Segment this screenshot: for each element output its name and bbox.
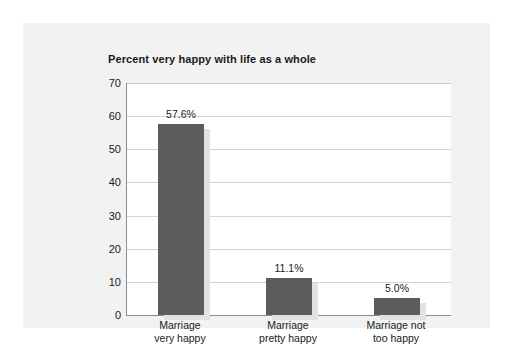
chart-title: Percent very happy with life as a whole <box>108 53 316 65</box>
y-axis-tick-label: 20 <box>97 243 121 255</box>
x-axis-category-line: too happy <box>336 332 456 345</box>
bar-3 <box>374 298 420 315</box>
x-axis-category-label: Marriagevery happy <box>120 319 240 344</box>
x-axis-category-line: Marriage not <box>336 319 456 332</box>
bar-1 <box>158 124 204 315</box>
x-axis-category-label: Marriage nottoo happy <box>336 319 456 344</box>
y-axis-tick-label: 50 <box>97 143 121 155</box>
y-axis: 010203040506070 <box>95 83 121 315</box>
y-axis-tick-label: 0 <box>97 309 121 321</box>
x-axis-category-line: pretty happy <box>228 332 348 345</box>
bar-group: 5.0% <box>374 83 420 315</box>
x-axis-category-label: Marriagepretty happy <box>228 319 348 344</box>
bar-2 <box>266 278 312 315</box>
bar-value-label: 57.6% <box>166 108 196 120</box>
plot-area: 57.6%11.1%5.0% <box>126 83 451 316</box>
x-axis-category-line: very happy <box>120 332 240 345</box>
bar-value-label: 11.1% <box>275 262 304 274</box>
bar-group: 11.1% <box>266 83 312 315</box>
y-axis-tick-label: 70 <box>97 77 121 89</box>
y-axis-tick-label: 10 <box>97 276 121 288</box>
y-axis-tick-label: 40 <box>97 176 121 188</box>
x-axis: Marriagevery happyMarriagepretty happyMa… <box>126 319 450 347</box>
y-axis-tick-label: 60 <box>97 110 121 122</box>
y-axis-tick-label: 30 <box>97 210 121 222</box>
x-axis-category-line: Marriage <box>228 319 348 332</box>
bar-group: 57.6% <box>158 83 204 315</box>
x-axis-category-line: Marriage <box>120 319 240 332</box>
bar-value-label: 5.0% <box>385 282 409 294</box>
chart-panel: Percent very happy with life as a whole … <box>23 23 490 328</box>
